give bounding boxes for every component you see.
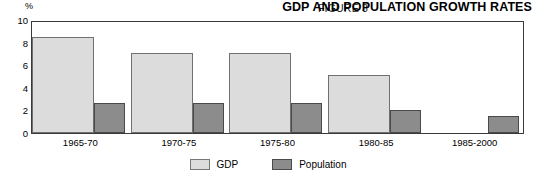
y-tick-label: 4: [2, 84, 28, 94]
y-tick-label: 8: [2, 39, 28, 49]
chart-title: GDP AND POPULATION GROWTH RATES: [282, 0, 532, 14]
population-bar: [193, 103, 224, 134]
y-tick-label: 2: [2, 106, 28, 116]
bars-layer: [32, 22, 523, 133]
gdp-bar: [328, 75, 390, 133]
x-tick-label: 1985-2000: [425, 137, 524, 149]
legend-label: Population: [299, 159, 346, 170]
chart-legend: GDPPopulation: [0, 156, 536, 172]
population-swatch: [272, 159, 292, 170]
x-tick-label: 1965-70: [31, 137, 130, 149]
population-bar: [488, 116, 519, 133]
bar-group: [328, 22, 427, 133]
chart-header: % FIGURE 3 GDP AND POPULATION GROWTH RAT…: [0, 0, 536, 17]
legend-item: GDP: [190, 159, 239, 170]
x-tick-label: 1975-80: [228, 137, 327, 149]
gdp-bar: [32, 37, 94, 133]
y-tick-label: 0: [2, 129, 28, 139]
legend-label: GDP: [217, 159, 239, 170]
gdp-bar: [229, 53, 291, 133]
y-axis-unit-label: %: [25, 1, 33, 12]
y-axis-ticks: 0246810: [0, 21, 28, 134]
bar-group: [229, 22, 328, 133]
population-bar: [94, 103, 125, 134]
gdp-bar: [131, 53, 193, 133]
figure-container: % FIGURE 3 GDP AND POPULATION GROWTH RAT…: [0, 0, 536, 179]
plot-area: [31, 21, 524, 134]
population-bar: [390, 110, 421, 133]
y-tick-label: 10: [2, 16, 28, 26]
x-tick-label: 1970-75: [130, 137, 229, 149]
bar-group: [426, 22, 525, 133]
legend-item: Population: [272, 159, 346, 170]
x-tick-label: 1980-85: [327, 137, 426, 149]
gdp-swatch: [190, 159, 210, 170]
y-tick-label: 6: [2, 61, 28, 71]
x-axis-labels: 1965-701970-751975-801980-851985-2000: [31, 137, 524, 151]
bar-group: [131, 22, 230, 133]
population-bar: [291, 103, 322, 134]
bar-group: [32, 22, 131, 133]
